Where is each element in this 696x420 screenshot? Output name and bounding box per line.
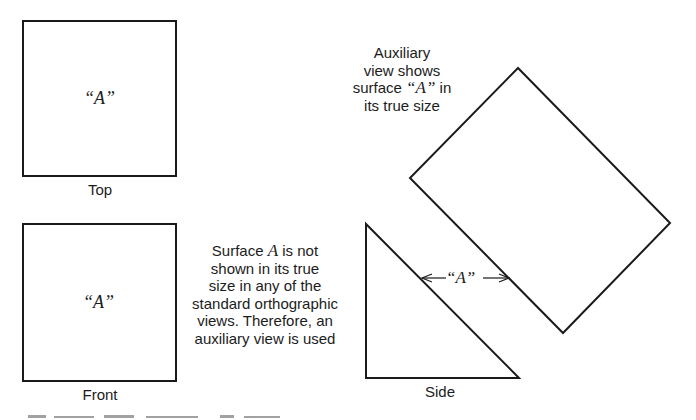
aux-note-line-2: view shows (338, 62, 466, 80)
cropped-caption-remnant (20, 410, 300, 420)
surface-note: Surface A is not shown in its true size … (180, 242, 350, 347)
top-view-caption: Top (70, 181, 130, 198)
aux-note-line-3-em: “A” (406, 78, 435, 97)
surface-note-line-1-post: is not (278, 242, 318, 259)
aux-note-line-3: surface “A” in (338, 79, 466, 97)
surface-note-line-1: Surface A is not (180, 242, 350, 260)
aux-note-line-1: Auxiliary (338, 44, 466, 62)
surface-note-line-2: shown in its true (180, 260, 350, 278)
side-view-triangle (366, 224, 519, 378)
side-view-caption: Side (410, 383, 470, 400)
surface-note-line-1-em: A (268, 241, 278, 260)
front-view-surface-label: “A” (83, 292, 114, 313)
aux-note-line-3-post: in (435, 79, 451, 96)
surface-note-line-3: size in any of the (180, 277, 350, 295)
aux-note-line-3-pre: surface (353, 79, 406, 96)
auxiliary-view-note: Auxiliary view shows surface “A” in its … (338, 44, 466, 114)
front-view-caption: Front (65, 386, 135, 403)
surface-note-line-1-pre: Surface (212, 242, 268, 259)
surface-note-line-5: views. Therefore, an (180, 312, 350, 330)
top-view-surface-label: “A” (84, 88, 115, 109)
aux-note-line-4: its true size (338, 97, 466, 115)
surface-note-line-6: auxiliary view is used (180, 330, 350, 348)
dimension-arrow-left-icon (422, 274, 446, 282)
side-view-surface-label: “A” (446, 268, 475, 288)
surface-note-line-4: standard orthographic (180, 295, 350, 313)
